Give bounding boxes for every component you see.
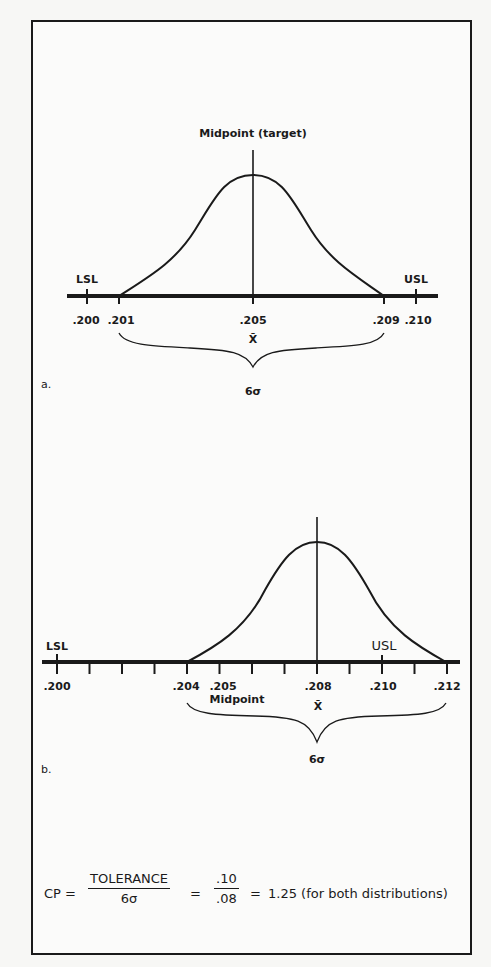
usl-label: USL bbox=[404, 273, 428, 286]
tick-label: .205 bbox=[209, 680, 236, 693]
denominator: .08 bbox=[216, 889, 237, 906]
formula-lhs: CP = bbox=[44, 886, 76, 901]
lsl-label: LSL bbox=[76, 273, 98, 286]
fraction-values: .10 .08 bbox=[214, 872, 239, 906]
panel-label-a: a. bbox=[41, 378, 51, 391]
formula-result: 1.25 (for both distributions) bbox=[268, 886, 448, 901]
tick-label: .212 bbox=[433, 680, 460, 693]
equals-sign: = bbox=[250, 886, 261, 901]
tick-label: .204 bbox=[172, 680, 199, 693]
figure-a: Midpoint (target) LSL USL .200 .201 .205… bbox=[41, 127, 438, 398]
lsl-label: LSL bbox=[46, 640, 68, 653]
panel-label-b: b. bbox=[41, 763, 51, 776]
mean-symbol: X̄ bbox=[249, 333, 258, 346]
tick-label: .205 bbox=[239, 314, 266, 327]
six-sigma-label: 6σ bbox=[245, 385, 261, 398]
mean-symbol: X̄ bbox=[314, 700, 323, 713]
numerator: .10 bbox=[214, 872, 239, 889]
tick-label: .201 bbox=[107, 314, 134, 327]
fraction-tolerance: TOLERANCE 6σ bbox=[88, 872, 170, 906]
tick-label: .210 bbox=[404, 314, 431, 327]
figure-b: LSL USL .200 .204 .205 .208 .210 .212 Mi… bbox=[41, 517, 461, 776]
normal-curve-a bbox=[119, 175, 384, 296]
tick-label: .200 bbox=[72, 314, 99, 327]
tick-label: .210 bbox=[369, 680, 396, 693]
midpoint-label: Midpoint bbox=[210, 693, 265, 706]
midpoint-target-label: Midpoint (target) bbox=[199, 127, 306, 140]
process-capability-diagram: Midpoint (target) LSL USL .200 .201 .205… bbox=[0, 0, 491, 967]
denominator: 6σ bbox=[121, 889, 138, 906]
six-sigma-label: 6σ bbox=[309, 753, 325, 766]
tick-label: .209 bbox=[372, 314, 399, 327]
cp-formula: CP = TOLERANCE 6σ = .10 .08 = 1.25 (for … bbox=[44, 872, 464, 916]
numerator: TOLERANCE bbox=[88, 872, 170, 889]
equals-sign: = bbox=[190, 886, 201, 901]
tick-label: .200 bbox=[43, 680, 70, 693]
tick-label: .208 bbox=[304, 680, 331, 693]
usl-label: USL bbox=[371, 638, 397, 653]
